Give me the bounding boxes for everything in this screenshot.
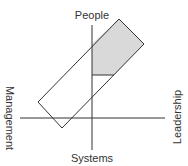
shaded-region bbox=[92, 19, 144, 75]
label-left: Management bbox=[4, 86, 16, 150]
quadrant-diagram: People Systems Management Leadership bbox=[0, 0, 188, 166]
label-bottom: Systems bbox=[71, 152, 114, 164]
label-top: People bbox=[75, 9, 109, 21]
label-right: Leadership bbox=[171, 90, 183, 144]
